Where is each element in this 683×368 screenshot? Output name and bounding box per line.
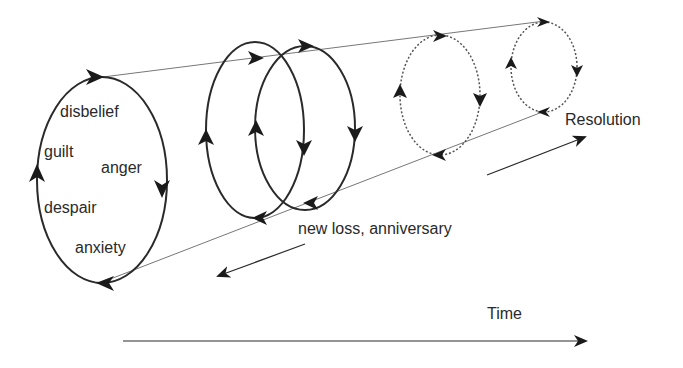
cycle-3-ellipse [255, 46, 355, 210]
label-despair: despair [44, 200, 96, 216]
label-resolution: Resolution [565, 112, 641, 128]
label-time: Time [487, 306, 522, 322]
label-disbelief: disbelief [60, 104, 119, 120]
cycle-5-ellipse [511, 22, 577, 112]
label-anxiety: anxiety [75, 240, 126, 256]
grief-cycle-diagram: disbelief guilt anger despair anxiety ne… [0, 0, 683, 368]
cycle-4-arrow-bottom-icon [432, 149, 446, 161]
label-guilt: guilt [44, 144, 73, 160]
cycle-4-ellipse [400, 35, 480, 155]
resolution-arrow [487, 137, 585, 175]
regression-arrow [218, 244, 305, 276]
cycle-1-arrow-top-icon [86, 69, 104, 85]
cycle-1-arrow-bottom-icon [96, 276, 114, 291]
diagram-svg [0, 0, 683, 368]
label-anger: anger [101, 160, 142, 176]
cycle-3-arrow-bottom-icon [303, 196, 318, 210]
label-new-loss-anniversary: new loss, anniversary [298, 221, 452, 237]
cycle-5-arrow-left-icon [505, 57, 517, 69]
